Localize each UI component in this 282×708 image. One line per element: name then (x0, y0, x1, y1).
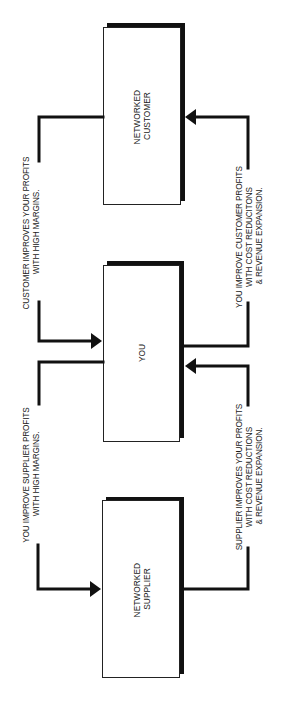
you-out-connector-right (184, 303, 248, 346)
you-in-connector-right (195, 366, 248, 405)
supplier-label: NETWORKED SUPPLIER (132, 561, 152, 618)
edge-supplier-to-you: SUPPLIER IMPROVES YOUR PROFITS WITH COST… (184, 358, 264, 589)
supplier-out-connector (184, 548, 248, 589)
arrow-left-icon (185, 109, 196, 125)
edge-customer-to-you: CUSTOMER IMPROVES YOUR PROFITS WITH HIGH… (22, 117, 103, 349)
customer-out-connector (39, 117, 103, 161)
arrow-left-icon (185, 358, 196, 374)
arrow-right-icon (90, 581, 101, 597)
node-you: YOU (104, 261, 185, 442)
node-networked-supplier: NETWORKED SUPPLIER (103, 497, 185, 678)
you-in-connector-left (39, 302, 92, 341)
customer-to-you-label: CUSTOMER IMPROVES YOUR PROFITS WITH HIGH… (22, 155, 41, 310)
value-network-diagram: NETWORKED CUSTOMER YOU NETWORKED SUPPLIE… (0, 0, 282, 708)
supplier-to-you-label: SUPPLIER IMPROVES YOUR PROFITS WITH COST… (235, 402, 264, 551)
you-out-connector-left (39, 362, 103, 404)
edge-you-to-customer: YOU IMPROVE CUSTOMER PROFITS WITH COST R… (184, 109, 264, 346)
you-to-customer-label: YOU IMPROVE CUSTOMER PROFITS WITH COST R… (235, 164, 264, 308)
edge-you-to-supplier: YOU IMPROVE SUPPLIER PROFITS WITH HIGH M… (22, 362, 103, 597)
customer-label: NETWORKED CUSTOMER (132, 88, 152, 145)
you-to-supplier-label: YOU IMPROVE SUPPLIER PROFITS WITH HIGH M… (22, 405, 41, 543)
arrow-right-icon (91, 333, 102, 349)
you-label: YOU (137, 344, 147, 362)
supplier-in-connector (38, 545, 91, 589)
customer-in-connector (195, 117, 248, 168)
node-networked-customer: NETWORKED CUSTOMER (104, 23, 186, 205)
